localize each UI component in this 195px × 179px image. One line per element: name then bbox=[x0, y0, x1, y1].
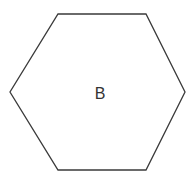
figure-canvas: B bbox=[0, 0, 195, 179]
hexagon-label: B bbox=[95, 85, 106, 102]
hexagon-diagram: B bbox=[0, 0, 195, 179]
